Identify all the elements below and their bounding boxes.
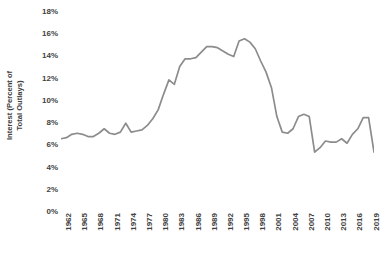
x-axis-tick-label: 2004: [291, 213, 300, 231]
x-axis-tick-label: 2001: [274, 213, 283, 231]
y-axis-tick-label: 14%: [42, 51, 58, 60]
y-axis-title-line-2: Total Outlays): [15, 70, 25, 139]
x-axis-tick-label: 1998: [258, 213, 267, 231]
x-axis-tick-label: 1971: [113, 213, 122, 231]
x-axis-tick-label: 2007: [307, 213, 316, 231]
y-axis-tick-label: 6%: [46, 140, 58, 149]
x-axis-tick-label: 2010: [323, 213, 332, 231]
plot-area: [61, 11, 374, 211]
x-axis-tick-label: 1989: [210, 213, 219, 231]
interest-series-line: [61, 39, 374, 152]
x-axis-tick-label: 1977: [145, 213, 154, 231]
x-axis-tick-label: 1974: [129, 213, 138, 231]
x-axis-tick-label: 1968: [96, 213, 105, 231]
y-axis-title: Interest (Percent of Total Outlays): [0, 0, 30, 210]
y-axis-tick-label: 10%: [42, 95, 58, 104]
y-axis-tick-label: 2%: [46, 184, 58, 193]
y-axis-title-line-1: Interest (Percent of: [6, 70, 16, 139]
x-axis-tick-label: 1992: [226, 213, 235, 231]
x-axis-tick-label: 1983: [177, 213, 186, 231]
x-axis-tick-label: 1965: [80, 213, 89, 231]
x-axis-tick-labels: 1962196519681971197419771980198319861989…: [61, 213, 374, 256]
y-axis-tick-label: 0%: [46, 207, 58, 216]
y-axis-tick-label: 12%: [42, 73, 58, 82]
x-axis-tick-label: 1962: [64, 213, 73, 231]
y-axis-tick-label: 18%: [42, 7, 58, 16]
x-axis-tick-label: 2016: [355, 213, 364, 231]
x-axis-tick-label: 2013: [339, 213, 348, 231]
x-axis-tick-label: 1986: [194, 213, 203, 231]
y-axis-tick-label: 8%: [46, 118, 58, 127]
x-axis-tick-label: 1980: [161, 213, 170, 231]
x-axis-tick-label: 2019: [372, 213, 380, 231]
x-axis-tick-label: 1995: [242, 213, 251, 231]
y-axis-tick-label: 4%: [46, 162, 58, 171]
y-axis-tick-labels: 0%2%4%6%8%10%12%14%16%18%: [30, 0, 60, 211]
interest-percent-of-total-outlays-chart: Interest (Percent of Total Outlays) 0%2%…: [0, 0, 380, 256]
y-axis-tick-label: 16%: [42, 29, 58, 38]
